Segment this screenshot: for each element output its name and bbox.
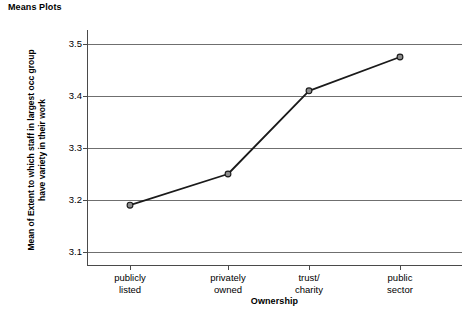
x-tick-label-line-1: privately <box>183 272 273 284</box>
x-tick-label-privately-owned: privately owned <box>183 272 273 295</box>
x-tick-label-line-1: public <box>355 272 445 284</box>
y-axis-tick-labels: 3.5 3.4 3.3 3.2 3.1 <box>52 30 82 265</box>
y-tick-mark-3.2 <box>83 200 87 201</box>
gridline-3.3 <box>87 148 462 149</box>
x-tick-label-line-2: listed <box>85 284 175 296</box>
means-plot-chart: Means Plots Mean of Extent to which staf… <box>0 0 476 322</box>
y-tick-label-3.4: 3.4 <box>54 91 82 101</box>
y-axis-title: Mean of Extent to which staff in largest… <box>23 30 51 270</box>
y-tick-mark-3.5 <box>83 44 87 45</box>
y-tick-label-3.1: 3.1 <box>54 247 82 257</box>
y-tick-mark-3.3 <box>83 148 87 149</box>
x-tick-label-line-2: owned <box>183 284 273 296</box>
gridline-3.1 <box>87 252 462 253</box>
x-axis-line <box>87 265 462 266</box>
chart-title: Means Plots <box>8 2 62 12</box>
x-tick-label-publicly-listed: publicly listed <box>85 272 175 295</box>
x-tick-mark-2 <box>228 265 229 270</box>
y-tick-mark-3.1 <box>83 252 87 253</box>
x-tick-label-public-sector: public sector <box>355 272 445 295</box>
x-tick-mark-1 <box>130 265 131 270</box>
y-tick-label-3.3: 3.3 <box>54 143 82 153</box>
y-axis-title-line-1: Mean of Extent to which staff in largest… <box>26 49 37 250</box>
plot-area <box>87 30 462 265</box>
gridline-3.2 <box>87 200 462 201</box>
x-tick-label-trust-charity: trust/ charity <box>264 272 354 295</box>
x-tick-mark-4 <box>400 265 401 270</box>
x-tick-label-line-1: trust/ <box>264 272 354 284</box>
x-tick-label-line-2: charity <box>264 284 354 296</box>
x-tick-mark-3 <box>309 265 310 270</box>
x-tick-label-line-1: publicly <box>85 272 175 284</box>
y-axis-title-line-2: have variety in their work <box>37 99 48 201</box>
y-tick-label-3.2: 3.2 <box>54 195 82 205</box>
y-tick-mark-3.4 <box>83 96 87 97</box>
gridline-3.4 <box>87 96 462 97</box>
x-tick-label-line-2: sector <box>355 284 445 296</box>
x-axis-title: Ownership <box>87 296 462 306</box>
gridline-3.5 <box>87 44 462 45</box>
y-tick-label-3.5: 3.5 <box>54 39 82 49</box>
y-axis-line <box>87 30 88 266</box>
